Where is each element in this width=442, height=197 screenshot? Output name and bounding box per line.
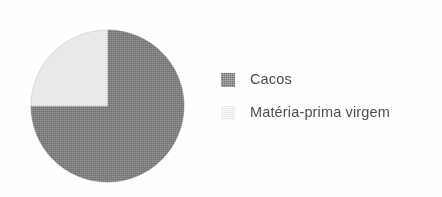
pie-slice-materia-prima-virgem (31, 30, 108, 106)
legend-label-materia-prima-virgem: Matéria-prima virgem (250, 105, 390, 120)
pie-chart-figure: Cacos Matéria-prima virgem (0, 0, 442, 197)
legend-label-cacos: Cacos (250, 72, 292, 87)
legend: Cacos Matéria-prima virgem (221, 63, 436, 129)
legend-item-cacos: Cacos (221, 63, 436, 96)
legend-swatch-materia-prima-virgem (221, 106, 235, 120)
legend-swatch-cacos (221, 73, 235, 87)
pie-chart-graphic (30, 29, 185, 183)
legend-item-materia-prima-virgem: Matéria-prima virgem (221, 96, 436, 129)
pie-svg (30, 29, 185, 183)
